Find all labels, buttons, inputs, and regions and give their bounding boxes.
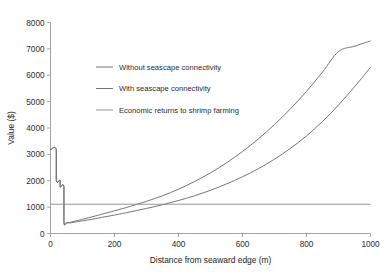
x-tick-label: 0 bbox=[48, 240, 53, 249]
value-vs-distance-line-chart: 0100020003000400050006000700080000200400… bbox=[0, 0, 388, 278]
x-tick-label: 800 bbox=[300, 240, 314, 249]
y-tick-label: 3000 bbox=[26, 150, 45, 159]
legend-label-1: With seascape connectivity bbox=[119, 84, 211, 93]
y-tick-label: 1000 bbox=[26, 203, 45, 212]
y-tick-label: 7000 bbox=[26, 45, 45, 54]
x-tick-label: 400 bbox=[172, 240, 186, 249]
x-tick-label: 200 bbox=[108, 240, 122, 249]
y-axis-title: Value ($) bbox=[6, 111, 16, 145]
x-tick-label: 600 bbox=[236, 240, 250, 249]
x-axis-title: Distance from seaward edge (m) bbox=[150, 255, 272, 265]
legend-label-2: Economic returns to shrimp farming bbox=[119, 106, 239, 115]
legend-label-0: Without seascape connectivity bbox=[119, 63, 221, 72]
chart-container: 0100020003000400050006000700080000200400… bbox=[0, 0, 388, 278]
x-tick-label: 1000 bbox=[361, 240, 380, 249]
y-tick-label: 6000 bbox=[26, 71, 45, 80]
y-tick-label: 5000 bbox=[26, 98, 45, 107]
y-tick-label: 2000 bbox=[26, 177, 45, 186]
y-tick-label: 0 bbox=[40, 230, 45, 239]
y-tick-label: 4000 bbox=[26, 124, 45, 133]
y-tick-label: 8000 bbox=[26, 19, 45, 28]
